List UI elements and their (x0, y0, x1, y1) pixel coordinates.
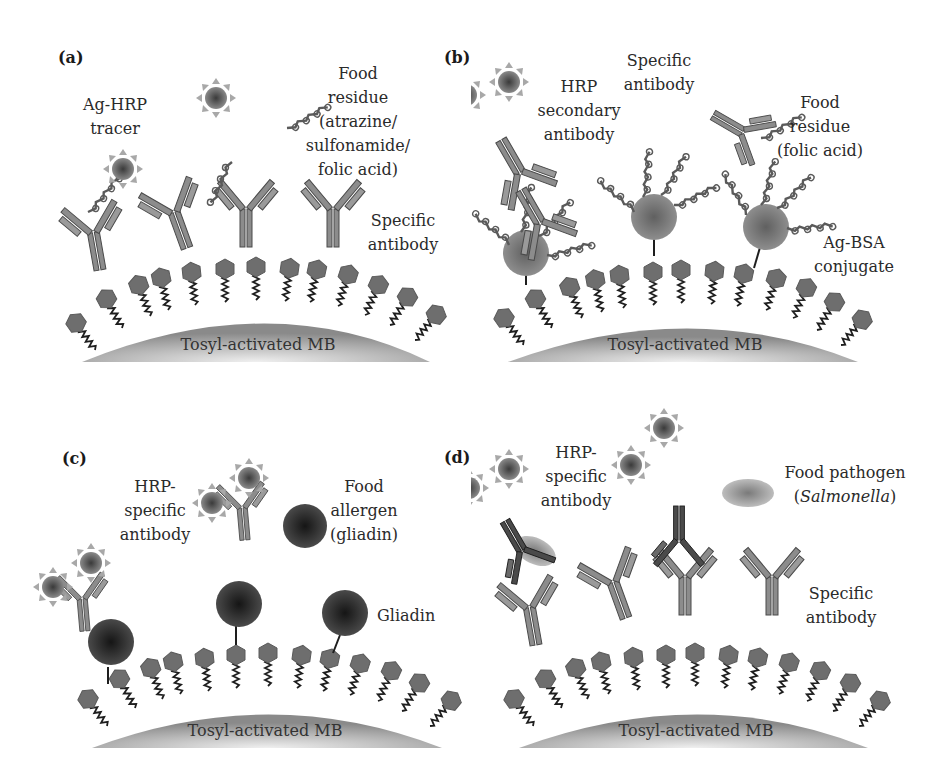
magnetic-bead: Tosyl-activated MB (82, 324, 430, 363)
svg-text:(Salmonella): (Salmonella) (794, 487, 896, 506)
svg-text:antibody: antibody (368, 235, 439, 254)
svg-text:Food pathogen: Food pathogen (785, 463, 906, 482)
magnetic-bead: Tosyl-activated MB (92, 715, 442, 749)
label-specific-antibody: Specific antibody (368, 211, 439, 254)
svg-text:Ag-HRP: Ag-HRP (82, 95, 147, 114)
svg-text:specific: specific (545, 467, 607, 486)
svg-text:Specific: Specific (627, 51, 691, 70)
specific-antibody-free (697, 88, 781, 172)
svg-text:sulfonamide/: sulfonamide/ (306, 136, 411, 155)
svg-text:antibody: antibody (120, 525, 191, 544)
svg-text:(atrazine/: (atrazine/ (319, 112, 398, 131)
svg-text:antibody: antibody (624, 75, 695, 94)
svg-text:HRP-: HRP- (134, 477, 175, 496)
panel-c: (c) Tosyl-activated MB (0, 386, 471, 771)
svg-text:residue: residue (328, 88, 388, 107)
panel-label: (d) (444, 448, 470, 467)
bead-label: Tosyl-activated MB (608, 335, 763, 354)
svg-text:Food: Food (344, 477, 384, 496)
svg-text:allergen: allergen (331, 501, 398, 520)
magnetic-bead: Tosyl-activated MB (519, 715, 868, 749)
svg-text:antibody: antibody (541, 491, 612, 510)
label-specific-antibody: Specific antibody (806, 584, 877, 627)
hrp-antibody-free (192, 458, 274, 543)
panel-label: (c) (62, 449, 87, 468)
bead-label: Tosyl-activated MB (619, 721, 774, 740)
label-food-allergen: Food allergen (gliadin) (330, 477, 398, 544)
label-hrp-antibody: HRP- specific antibody (120, 477, 191, 544)
svg-text:specific: specific (124, 501, 186, 520)
label-tracer: Ag-HRP tracer (82, 95, 147, 138)
label-hrp-antibody: HRP- specific antibody (541, 443, 612, 510)
panel-label: (b) (444, 48, 470, 67)
food-pathogen-salmonella (722, 479, 774, 507)
panel-label: (a) (58, 48, 84, 67)
svg-text:Ag-BSA: Ag-BSA (822, 233, 885, 252)
panel-d-label-wrap: (d) (440, 444, 480, 474)
svg-text:Specific: Specific (809, 584, 873, 603)
bead-label: Tosyl-activated MB (181, 335, 336, 354)
label-food-residue: Food residue (folic acid) (777, 93, 863, 160)
ag-hrp-tracer-free (196, 78, 236, 207)
label-residue: Food residue (atrazine/ sulfonamide/ fol… (306, 64, 411, 179)
svg-text:(folic acid): (folic acid) (777, 141, 863, 160)
specific-antibodies (54, 173, 367, 276)
svg-text:Food: Food (338, 64, 378, 83)
panel-b-label-wrap: (b) (440, 44, 480, 74)
hrp-antibody-bound (33, 543, 114, 634)
panel-d: Tosyl-activated MB HRP- spe (471, 386, 942, 771)
food-allergen-gliadin (283, 504, 327, 548)
hrp-antibody-free (611, 408, 705, 567)
svg-text:secondary: secondary (537, 101, 620, 120)
label-secondary-antibody: HRP secondary antibody (537, 77, 620, 144)
panel-a: (a) Tosyl-activated MB (0, 0, 471, 385)
svg-text:HRP-: HRP- (555, 443, 596, 462)
label-gliadin: Gliadin (377, 606, 435, 625)
svg-text:antibody: antibody (806, 608, 877, 627)
svg-text:antibody: antibody (544, 125, 615, 144)
label-ag-bsa-conjugate: Ag-BSA conjugate (814, 233, 894, 276)
svg-text:Food: Food (800, 93, 840, 112)
svg-text:folic acid): folic acid) (318, 160, 398, 179)
svg-text:conjugate: conjugate (814, 257, 894, 276)
svg-text:residue: residue (790, 117, 850, 136)
svg-text:HRP: HRP (561, 77, 598, 96)
panel-b: Tosyl-activated MB (471, 0, 942, 385)
magnetic-bead: Tosyl-activated MB (508, 329, 858, 363)
svg-text:(gliadin): (gliadin) (330, 525, 398, 544)
label-specific-antibody: Specific antibody (624, 51, 695, 94)
bead-label: Tosyl-activated MB (188, 721, 343, 740)
svg-text:Specific: Specific (371, 211, 435, 230)
label-food-pathogen: Food pathogen (Salmonella) (785, 463, 906, 506)
svg-text:tracer: tracer (90, 119, 140, 138)
